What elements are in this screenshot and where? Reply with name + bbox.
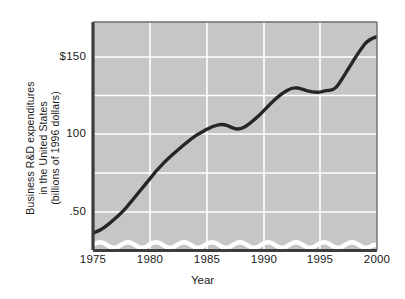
x-tick-label-1990: 1990 (241, 253, 287, 265)
chart-figure: Business R&D expenditures in the United … (0, 0, 405, 299)
x-tick-label-1975: 1975 (70, 253, 116, 265)
x-tick-label-2000: 2000 (354, 253, 400, 265)
x-tick-label-1995: 1995 (297, 253, 343, 265)
x-tick-label-1985: 1985 (184, 253, 230, 265)
x-axis-title: Year (0, 274, 405, 286)
x-tick-label-1980: 1980 (127, 253, 173, 265)
